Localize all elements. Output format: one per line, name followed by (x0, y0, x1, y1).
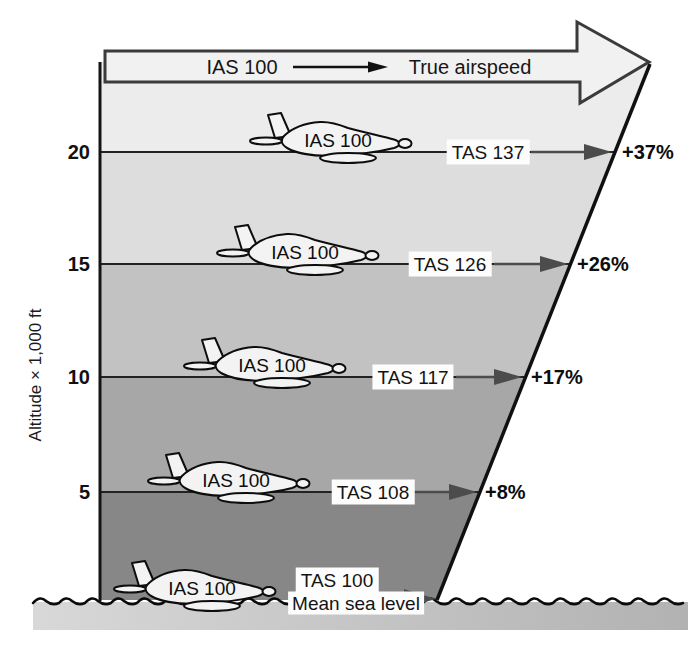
tas-badge-5: TAS 108 (332, 480, 415, 505)
plane-ias-label-5: IAS 100 (202, 470, 270, 492)
pct-label-10: +17% (531, 366, 583, 389)
diagram-canvas (0, 0, 699, 646)
tick-15: 15 (30, 253, 90, 276)
plane-ias-label-sea: IAS 100 (168, 578, 236, 600)
tas-badge-sea: TAS 100 (296, 568, 379, 593)
tas-badge-10: TAS 117 (372, 365, 453, 390)
plane-ias-label-10: IAS 100 (238, 355, 306, 377)
pct-label-5: +8% (485, 481, 526, 504)
pct-label-15: +26% (577, 253, 629, 276)
tick-5: 5 (30, 481, 90, 504)
plane-ias-label-15: IAS 100 (271, 242, 339, 264)
tas-badge-20: TAS 137 (447, 140, 530, 165)
plane-ias-label-20: IAS 100 (304, 130, 372, 152)
banner-true-airspeed-label: True airspeed (409, 56, 532, 79)
mean-sea-level-label: Mean sea level (288, 592, 424, 615)
tick-20: 20 (30, 141, 90, 164)
tas-badge-15: TAS 126 (409, 252, 492, 277)
tick-10: 10 (30, 366, 90, 389)
ias-tas-altitude-diagram: IAS 100 True airspeed Altitude × 1,000 f… (0, 0, 699, 646)
pct-label-20: +37% (622, 141, 674, 164)
banner-ias-label: IAS 100 (206, 56, 277, 79)
